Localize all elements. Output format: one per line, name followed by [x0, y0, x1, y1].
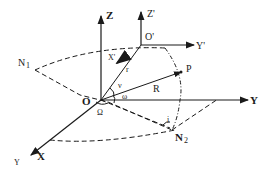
o-label: O — [82, 95, 91, 107]
r-vector — [101, 45, 141, 100]
svg-text:1: 1 — [26, 61, 30, 70]
svg-text:N: N — [175, 131, 183, 143]
inclination-label: i — [167, 115, 170, 124]
nu-label: ν — [118, 81, 122, 90]
y-label: Y — [250, 94, 258, 106]
point-p-marker — [180, 71, 183, 74]
r-label: r — [126, 65, 129, 74]
n1-label: N 1 — [18, 57, 30, 70]
orbital-plane — [108, 48, 218, 130]
R-vector — [101, 72, 181, 100]
omega-label: ω — [122, 92, 127, 101]
p-label: P — [186, 63, 192, 74]
x-prime-label: X' — [108, 53, 116, 62]
z-prime-label: Z' — [147, 8, 155, 19]
y-prime-label: Y' — [196, 40, 205, 51]
x-label: X — [37, 150, 45, 162]
Omega-label: Ω — [97, 108, 103, 117]
z-label: Z — [106, 9, 113, 21]
n2-label: N 2 — [175, 131, 188, 145]
vernal-equinox-label: Υ — [14, 158, 20, 167]
x-prime-axis — [117, 55, 128, 63]
svg-text:N: N — [18, 57, 25, 68]
x-axis — [31, 100, 101, 155]
R-label: R — [153, 83, 160, 94]
node-line — [101, 100, 170, 128]
orbital-diagram: Z Z' O' Y' X' r P R ν ω Ω O Y X Υ i N 1 … — [0, 0, 278, 178]
o-prime-label: O' — [145, 31, 154, 42]
svg-text:2: 2 — [184, 136, 188, 145]
body-axes — [117, 12, 194, 63]
